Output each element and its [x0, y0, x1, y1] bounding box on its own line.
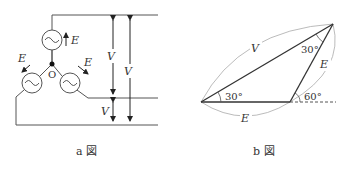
- voltage-label-top-middle: V: [107, 50, 116, 63]
- neutral-node-label: O: [48, 69, 56, 80]
- figure-b-phasor-diagram: V E E 30° 30° 60°: [201, 24, 336, 125]
- side-label-e-bottom: E: [240, 112, 249, 125]
- voltage-label-middle-bottom: V: [101, 105, 110, 118]
- angle-label-left: 30°: [225, 91, 243, 102]
- voltage-label-top-bottom: V: [124, 65, 133, 78]
- generator-top: [42, 30, 62, 50]
- emf-label-right: E: [83, 56, 92, 69]
- emf-arrow-left-icon: [22, 65, 30, 72]
- angle-label-exterior: 60°: [304, 91, 322, 102]
- bottom-wire: [16, 90, 158, 125]
- middle-wire: [77, 90, 158, 98]
- angle-arc-left: [218, 92, 221, 102]
- angle-arc-top: [316, 34, 323, 42]
- generator-left: [22, 73, 42, 93]
- emf-label-left: E: [17, 52, 26, 65]
- figure-a-caption: a 図: [76, 145, 97, 158]
- side-label-e-right: E: [319, 58, 328, 71]
- figure-b-caption: b 図: [253, 145, 275, 158]
- wires: [16, 15, 158, 125]
- generator-right: [60, 73, 80, 93]
- top-wire: [52, 15, 158, 30]
- angle-label-top: 30°: [301, 44, 319, 55]
- emf-label-top: E: [70, 34, 79, 47]
- figure-a-circuit: O E E E V V V: [16, 15, 158, 125]
- side-label-v: V: [251, 42, 260, 55]
- neutral-node-dot: [50, 62, 55, 67]
